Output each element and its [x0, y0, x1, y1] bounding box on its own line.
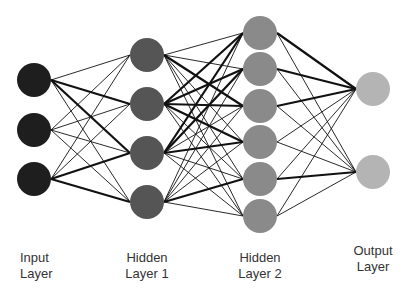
- input-node: [17, 63, 51, 97]
- label-line2: Layer 1: [107, 266, 187, 282]
- edge: [164, 153, 243, 179]
- edge: [164, 104, 243, 106]
- label-line1: Input: [20, 250, 100, 266]
- output-node: [356, 155, 390, 189]
- hidden1-node: [130, 38, 164, 72]
- label-line2: Layer: [333, 259, 408, 275]
- hidden2-node: [243, 16, 277, 50]
- hidden2-node: [243, 52, 277, 86]
- hidden2-node: [243, 125, 277, 159]
- hidden2-node: [243, 162, 277, 196]
- hidden2-node: [243, 199, 277, 233]
- edge: [51, 55, 130, 130]
- edge: [51, 55, 130, 179]
- label-input-layer: Input Layer: [20, 250, 100, 282]
- hidden1-node: [130, 185, 164, 219]
- output-node: [356, 72, 390, 106]
- label-line2: Layer: [20, 266, 100, 282]
- hidden1-node: [130, 87, 164, 121]
- edge: [277, 33, 356, 89]
- edge: [277, 69, 356, 89]
- hidden2-node: [243, 89, 277, 123]
- edge: [277, 172, 356, 179]
- edge: [164, 202, 243, 216]
- hidden1-node: [130, 136, 164, 170]
- label-hidden-layer-2: Hidden Layer 2: [220, 250, 300, 282]
- edge: [51, 179, 130, 202]
- edge: [51, 55, 130, 80]
- input-node: [17, 162, 51, 196]
- label-output-layer: Output Layer: [333, 243, 408, 275]
- label-hidden-layer-1: Hidden Layer 1: [107, 250, 187, 282]
- label-line1: Output: [333, 243, 408, 259]
- label-line1: Hidden: [107, 250, 187, 266]
- label-line1: Hidden: [220, 250, 300, 266]
- edge: [164, 33, 243, 202]
- input-node: [17, 113, 51, 147]
- edge: [277, 89, 356, 106]
- edge: [277, 89, 356, 216]
- label-line2: Layer 2: [220, 266, 300, 282]
- edges: [51, 33, 356, 216]
- edge: [51, 153, 130, 179]
- edge: [164, 153, 243, 216]
